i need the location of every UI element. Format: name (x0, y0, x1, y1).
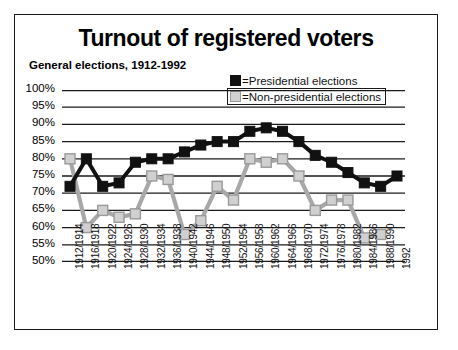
data-point-marker (327, 195, 337, 205)
x-axis-tick-label: 1984/1986 (368, 224, 379, 269)
x-axis-tick-label: 1952/1954 (238, 224, 249, 269)
x-axis-tick-label: 1988/1990 (385, 224, 396, 269)
data-point-marker (392, 171, 402, 181)
x-axis-tick-label: 1972/1974 (319, 224, 330, 269)
data-point-marker (147, 171, 157, 181)
data-point-marker (147, 154, 157, 164)
x-axis-tick-label: 1960/1962 (270, 224, 281, 269)
x-axis-tick-label: 1928/1930 (139, 224, 150, 269)
data-point-marker (245, 154, 255, 164)
y-axis-tick-label: 70% (19, 185, 55, 197)
y-axis-tick-label: 95% (19, 99, 55, 111)
data-point-marker (114, 178, 124, 188)
data-point-marker (212, 181, 222, 191)
y-axis-tick-label: 100% (19, 82, 55, 94)
data-point-marker (81, 154, 91, 164)
x-axis-tick-label: 1956/1958 (254, 224, 265, 269)
data-point-marker (229, 195, 239, 205)
x-axis-tick-label: 1976/1978 (336, 224, 347, 269)
x-axis-tick-label: 1924/1926 (123, 224, 134, 269)
y-axis-tick-label: 75% (19, 168, 55, 180)
y-axis-tick-label: 55% (19, 237, 55, 249)
y-axis-tick-label: 60% (19, 220, 55, 232)
data-point-marker (65, 181, 75, 191)
legend-label-presidential: =Presidential elections (242, 75, 357, 87)
data-point-marker (163, 174, 173, 184)
x-axis-tick-label: 1920/1922 (107, 224, 118, 269)
data-point-marker (310, 205, 320, 215)
data-point-marker (261, 123, 271, 133)
data-point-marker (98, 205, 108, 215)
y-axis-tick-label: 50% (19, 254, 55, 266)
legend-item-presidential: =Presidential elections (228, 73, 386, 88)
x-axis-tick-label: 1936/1938 (172, 224, 183, 269)
data-point-marker (212, 137, 222, 147)
x-axis-tick-label: 1948/1950 (221, 224, 232, 269)
chart-figure: Turnout of registered voters General ele… (14, 14, 438, 330)
x-axis-tick-label: 1932/1934 (156, 224, 167, 269)
data-point-marker (245, 126, 255, 136)
x-axis-tick-label: 1940/1942 (188, 224, 199, 269)
x-axis-tick-label: 1944/1946 (205, 224, 216, 269)
data-point-marker (343, 195, 353, 205)
data-point-marker (327, 157, 337, 167)
data-point-marker (98, 181, 108, 191)
series-markers-presidential (65, 123, 402, 191)
data-point-marker (179, 147, 189, 157)
data-point-marker (229, 137, 239, 147)
x-axis-tick-label: 1980/1982 (352, 224, 363, 269)
data-point-marker (343, 168, 353, 178)
data-point-marker (163, 154, 173, 164)
data-point-marker (261, 157, 271, 167)
data-point-marker (376, 181, 386, 191)
x-axis-tick-label: 1992 (401, 248, 412, 269)
data-point-marker (278, 126, 288, 136)
legend-swatch-presidential-icon (230, 75, 241, 86)
data-point-marker (310, 150, 320, 160)
x-axis-tick-label: 1912/1914 (74, 224, 85, 269)
data-point-marker (65, 154, 75, 164)
y-axis-tick-label: 80% (19, 151, 55, 163)
data-point-marker (359, 178, 369, 188)
chart-subtitle: General elections, 1912-1992 (29, 59, 186, 71)
data-point-marker (114, 212, 124, 222)
series-segment (234, 159, 250, 200)
y-axis-tick-label: 85% (19, 134, 55, 146)
x-axis-tick-label: 1916/1918 (90, 224, 101, 269)
y-axis-tick-label: 65% (19, 202, 55, 214)
data-point-marker (278, 154, 288, 164)
data-point-marker (130, 157, 140, 167)
y-axis-tick-label: 90% (19, 116, 55, 128)
x-axis-tick-label: 1968/1970 (303, 224, 314, 269)
data-point-marker (130, 209, 140, 219)
data-point-marker (196, 140, 206, 150)
x-axis-tick-label: 1964/1966 (287, 224, 298, 269)
page-title: Turnout of registered voters (15, 25, 437, 52)
data-point-marker (294, 137, 304, 147)
data-point-marker (294, 171, 304, 181)
x-axis-labels: 1912/19141916/19181920/19221924/19261928… (62, 267, 405, 329)
